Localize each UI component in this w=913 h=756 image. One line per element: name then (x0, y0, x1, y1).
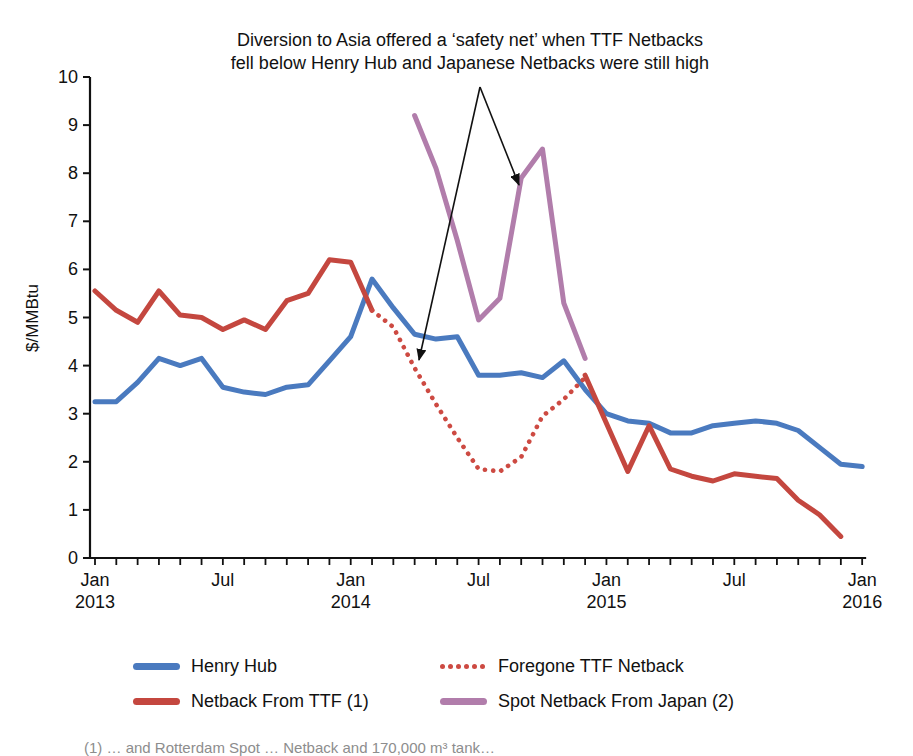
legend-label-foregone-ttf-netback: Foregone TTF Netback (498, 656, 684, 677)
legend-label-henry-hub: Henry Hub (191, 656, 277, 677)
chart-canvas: 012345678910Jan2013JulJan2014JulJan2015J… (0, 0, 913, 630)
netback-from-ttf-1-line (95, 260, 372, 330)
legend-label-spot-netback-from-japan: Spot Netback From Japan (2) (498, 691, 734, 712)
x-tick-label-month: Jul (723, 570, 746, 590)
x-tick-label-year: 2016 (842, 592, 882, 612)
legend-swatch-foregone-ttf-netback (440, 663, 487, 670)
legend-item-henry-hub: Henry Hub (133, 655, 277, 677)
annotation-arrow (480, 87, 519, 185)
netback-from-ttf-1-line (585, 375, 841, 536)
annotation: Diversion to Asia offered a ‘safety net’… (175, 29, 765, 75)
legend-swatch-netback-from-ttf (133, 698, 180, 705)
y-tick-label: 8 (68, 163, 78, 183)
annotation-arrow (419, 87, 480, 360)
x-tick-label-month: Jul (467, 570, 490, 590)
henry-hub-line (95, 279, 862, 467)
y-tick-label: 1 (68, 500, 78, 520)
x-tick-label-year: 2015 (586, 592, 626, 612)
y-tick-label: 3 (68, 404, 78, 424)
y-tick-label: 2 (68, 452, 78, 472)
y-tick-label: 0 (68, 548, 78, 568)
y-axis-title: $/MMBtu (23, 284, 43, 352)
x-tick-label-month: Jul (211, 570, 234, 590)
foregone-ttf-netback-line (372, 310, 585, 471)
legend-swatch-henry-hub (133, 663, 180, 670)
x-tick-label-month: Jan (592, 570, 621, 590)
y-tick-label: 5 (68, 308, 78, 328)
x-tick-label-year: 2014 (331, 592, 371, 612)
y-tick-label: 6 (68, 259, 78, 279)
x-tick-label-month: Jan (848, 570, 877, 590)
spot-netback-from-japan-2-line (415, 116, 585, 359)
footnote-clipped: (1) … and Rotterdam Spot … Netback and 1… (84, 739, 904, 756)
legend-item-spot-netback-from-japan: Spot Netback From Japan (2) (440, 690, 734, 712)
x-tick-label-month: Jan (336, 570, 365, 590)
legend-item-netback-from-ttf: Netback From TTF (1) (133, 690, 369, 712)
y-tick-label: 10 (58, 67, 78, 87)
legend-item-foregone-ttf-netback: Foregone TTF Netback (440, 655, 684, 677)
x-tick-label-month: Jan (80, 570, 109, 590)
legend-label-netback-from-ttf: Netback From TTF (1) (191, 691, 369, 712)
y-tick-label: 7 (68, 211, 78, 231)
annotation-line2: fell below Henry Hub and Japanese Netbac… (175, 52, 765, 75)
x-tick-label-year: 2013 (75, 592, 115, 612)
annotation-line1: Diversion to Asia offered a ‘safety net’… (175, 29, 765, 52)
y-tick-label: 9 (68, 115, 78, 135)
y-tick-label: 4 (68, 356, 78, 376)
legend-swatch-spot-netback-from-japan (440, 698, 487, 705)
